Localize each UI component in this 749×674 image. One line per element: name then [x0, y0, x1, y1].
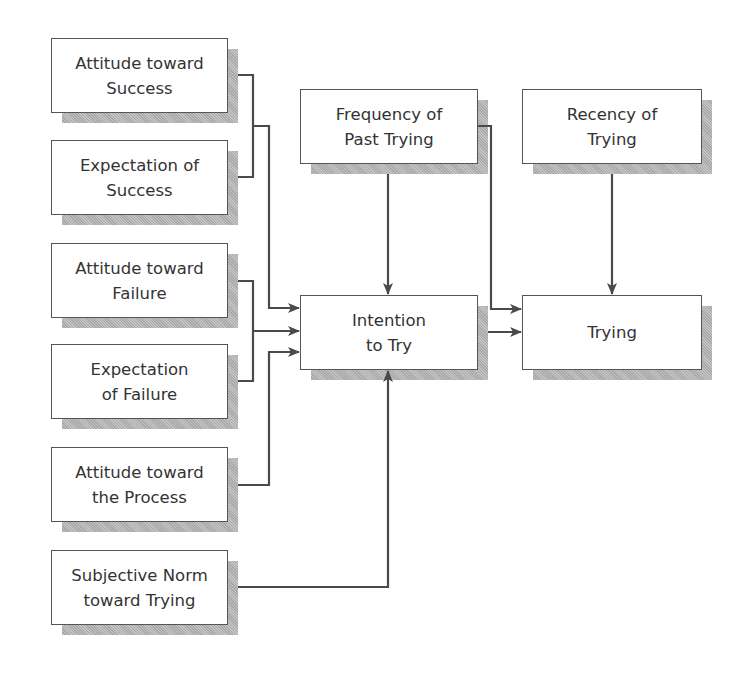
node-label: Attitude toward the Process [75, 460, 203, 510]
edge-failure-bracket [238, 281, 253, 381]
node-label: Expectation of Success [80, 153, 199, 203]
node-label: Frequency of Past Trying [336, 102, 442, 152]
node-attitude-toward-success: Attitude toward Success [51, 38, 228, 113]
node-label: Recency of Trying [567, 102, 658, 152]
node-recency-of-trying: Recency of Trying [522, 89, 702, 164]
node-label: Attitude toward Failure [75, 256, 203, 306]
node-label: Trying [587, 320, 637, 345]
node-expectation-of-success: Expectation of Success [51, 140, 228, 215]
node-expectation-of-failure: Expectation of Failure [51, 344, 228, 419]
node-label: Intention to Try [352, 308, 426, 358]
node-trying: Trying [522, 295, 702, 370]
node-subjective-norm: Subjective Norm toward Trying [51, 550, 228, 625]
edge-norm-to-intention [238, 371, 388, 587]
node-label: Subjective Norm toward Trying [71, 563, 207, 613]
node-label: Attitude toward Success [75, 51, 203, 101]
edge-success-bracket [238, 75, 253, 177]
node-attitude-toward-failure: Attitude toward Failure [51, 243, 228, 318]
edge-process-to-intention [238, 352, 299, 485]
node-attitude-toward-process: Attitude toward the Process [51, 447, 228, 522]
node-frequency-past-trying: Frequency of Past Trying [300, 89, 478, 164]
node-label: Expectation of Failure [90, 357, 188, 407]
edge-success-to-intention [253, 126, 299, 308]
node-intention-to-try: Intention to Try [300, 295, 478, 370]
